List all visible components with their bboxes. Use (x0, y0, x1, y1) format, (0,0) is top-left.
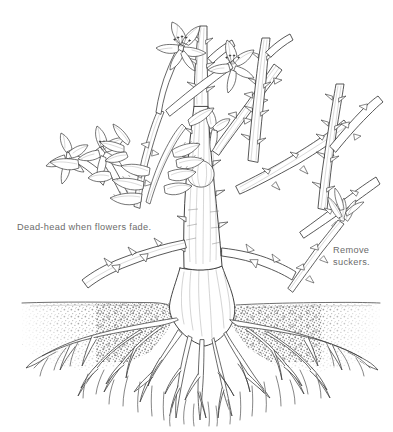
illustration-canvas (0, 0, 393, 432)
caption-remove-suckers: Remove suckers. (333, 244, 370, 268)
caption-deadhead: Dead-head when flowers fade. (17, 221, 151, 233)
rose-pruning-illustration: Dead-head when flowers fade. Remove suck… (0, 0, 393, 432)
